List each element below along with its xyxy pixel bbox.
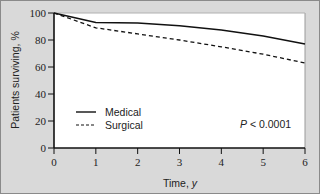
y-tick-label: 20 (35, 115, 47, 127)
legend-medical-label: Medical (105, 106, 141, 118)
y-axis: 020406080100 (30, 7, 55, 154)
y-tick-label: 40 (35, 88, 47, 100)
y-tick-label: 60 (35, 61, 47, 73)
x-tick-label: 2 (135, 156, 141, 168)
x-axis-title: Time, y (163, 177, 198, 189)
survival-chart: 020406080100 0123456 Patients surviving,… (0, 0, 320, 194)
x-tick-label: 0 (51, 156, 57, 168)
y-tick-label: 80 (35, 34, 47, 46)
x-tick-label: 6 (302, 156, 308, 168)
x-tick-label: 4 (219, 156, 225, 168)
y-axis-title: Patients surviving, % (9, 31, 21, 128)
legend-surgical-label: Surgical (105, 119, 143, 131)
y-tick-label: 100 (30, 7, 47, 19)
x-tick-label: 3 (177, 156, 183, 168)
x-tick-label: 5 (260, 156, 266, 168)
y-tick-label: 0 (41, 142, 47, 154)
x-tick-label: 1 (93, 156, 99, 168)
p-value-annotation: P < 0.0001 (240, 118, 291, 130)
x-axis: 0123456 (51, 148, 308, 168)
